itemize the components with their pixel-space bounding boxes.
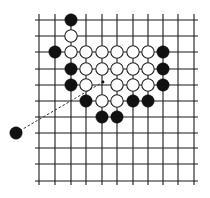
white-stone-icon xyxy=(111,79,123,91)
white-stone-icon xyxy=(96,63,108,75)
white-stone-icon xyxy=(127,46,139,58)
white-stone-icon xyxy=(142,79,154,91)
black-stone-icon xyxy=(127,95,139,107)
black-stone-icon xyxy=(65,14,77,26)
white-stone-icon xyxy=(111,63,123,75)
white-stone-icon xyxy=(96,95,108,107)
black-stone-icon xyxy=(49,46,61,58)
black-stone-icon xyxy=(65,63,77,75)
go-board-diagram xyxy=(0,0,210,198)
white-stone-icon xyxy=(65,46,77,58)
external-black-stone-icon xyxy=(10,127,22,139)
white-stone-icon xyxy=(142,63,154,75)
white-stone-icon xyxy=(127,79,139,91)
white-stone-icon xyxy=(111,46,123,58)
black-stone-icon xyxy=(142,95,154,107)
white-stone-icon xyxy=(80,79,92,91)
black-stone-icon xyxy=(80,95,92,107)
black-stone-icon xyxy=(96,111,108,123)
white-stone-icon xyxy=(127,63,139,75)
white-stone-icon xyxy=(96,46,108,58)
black-stone-icon xyxy=(157,79,169,91)
white-stone-icon xyxy=(142,46,154,58)
arrow-target-dot xyxy=(102,81,105,84)
black-stone-icon xyxy=(157,63,169,75)
white-stone-icon xyxy=(80,63,92,75)
white-stone-icon xyxy=(65,30,77,42)
black-stone-icon xyxy=(157,46,169,58)
black-stone-icon xyxy=(65,79,77,91)
stones-layer xyxy=(10,14,169,139)
white-stone-icon xyxy=(111,95,123,107)
white-stone-icon xyxy=(80,46,92,58)
black-stone-icon xyxy=(111,111,123,123)
